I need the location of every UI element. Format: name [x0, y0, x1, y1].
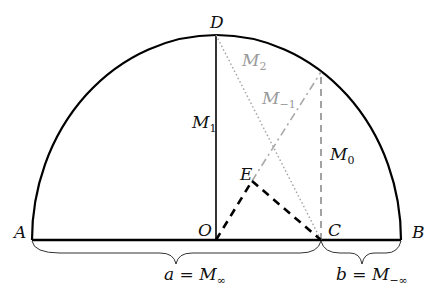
label-M0: M0 [329, 144, 354, 167]
label-M1: M1 [191, 112, 216, 135]
label-a-equals-Minf: a = M∞ [164, 264, 226, 287]
label-point-D: D [209, 12, 224, 32]
label-point-A: A [12, 222, 26, 242]
segment-OE [216, 181, 252, 240]
label-point-E: E [239, 164, 253, 184]
semicircle-means-diagram: A B O C D E M1 M0 M2 M−1 a = M∞ b = M−∞ [0, 0, 439, 296]
label-point-C: C [328, 220, 341, 240]
brace-b [321, 241, 401, 264]
brace-a [32, 241, 321, 264]
segment-DC-M2 [216, 35, 321, 240]
label-point-B: B [411, 222, 425, 242]
label-point-O: O [198, 220, 212, 240]
label-b-equals-Mneginf: b = M−∞ [336, 264, 408, 287]
label-Mneg1: M−1 [261, 88, 296, 111]
label-M2: M2 [241, 50, 266, 73]
segment-EC [252, 181, 321, 240]
